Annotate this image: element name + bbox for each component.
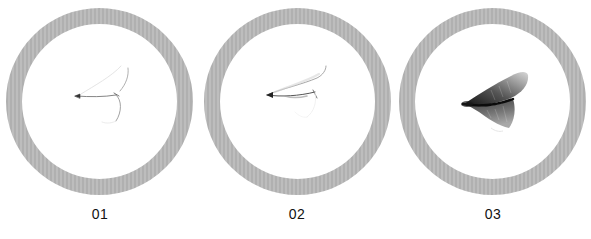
- step-02-illustration: [199, 0, 395, 205]
- lip-refined-sketch: [266, 66, 326, 117]
- step-03-illustration: [395, 0, 591, 205]
- lip-outline-sketch: [75, 66, 128, 123]
- lip-shaded-drawing: [461, 72, 528, 131]
- ring-frame: [14, 16, 185, 187]
- step-03: 03: [395, 0, 591, 239]
- step-01: 01: [2, 0, 198, 239]
- step-label: 01: [2, 206, 198, 222]
- step-02: 02: [199, 0, 395, 239]
- lip-drawing-steps: 01 02: [0, 0, 591, 239]
- step-01-illustration: [2, 0, 198, 205]
- step-label: 03: [395, 206, 591, 222]
- ring-frame: [212, 16, 383, 187]
- step-label: 02: [199, 206, 395, 222]
